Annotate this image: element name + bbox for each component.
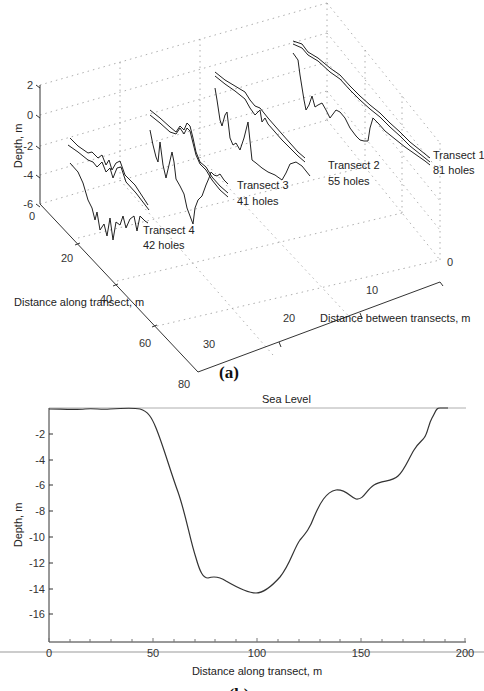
- y-tick: 20: [283, 312, 295, 324]
- depth-profile-line: [49, 408, 448, 593]
- panel-b-label: (b): [229, 685, 250, 691]
- transect-1-holes: 81 holes: [433, 164, 475, 176]
- y-tick: 30: [203, 338, 215, 350]
- transect-3-label: Transect 3: [237, 179, 289, 191]
- x-tick-labels: 0 50 100 150 200: [46, 647, 474, 659]
- x-tick: 0: [46, 647, 52, 659]
- y-tick: -16: [29, 608, 45, 620]
- y-tick: 10: [366, 284, 378, 296]
- x-tick: 50: [147, 647, 159, 659]
- x-axis-label: Distance along transect, m: [192, 665, 322, 677]
- transect-2-traces: [215, 72, 310, 180]
- z-tick: -4: [23, 169, 33, 181]
- x-tick: 200: [456, 647, 474, 659]
- y-tick: -6: [35, 479, 45, 491]
- panel-a-3d-chart: 2 0 -2 -4 -6 Depth, m 0 20 40 60 80 Dist…: [12, 3, 484, 390]
- z-tick: -2: [23, 140, 33, 152]
- z-tick: 2: [27, 79, 33, 91]
- y-tick-labels: 0 10 20 30: [203, 256, 453, 350]
- y-tick: -4: [35, 454, 45, 466]
- transect-1-traces: [293, 41, 430, 165]
- panel-a-label: (a): [219, 363, 239, 382]
- transect-4-holes: 42 holes: [143, 239, 185, 251]
- y-axis-label: Distance between transects, m: [320, 312, 470, 324]
- y-tick-labels: -2 -4 -6 -8 -10 -12 -14 -16: [29, 428, 45, 620]
- x-tick: 100: [248, 647, 266, 659]
- transect-4-label: Transect 4: [143, 224, 195, 236]
- y-tick: -8: [35, 505, 45, 517]
- z-tick: 0: [27, 109, 33, 121]
- transect-2-label: Transect 2: [328, 159, 380, 171]
- transect-1-label: Transect 1: [433, 149, 484, 161]
- y-tick: -14: [29, 583, 45, 595]
- y-axis-label: Depth, m: [12, 503, 24, 548]
- x-tick: 80: [178, 378, 190, 390]
- x-tick: 150: [352, 647, 370, 659]
- figure: 2 0 -2 -4 -6 Depth, m 0 20 40 60 80 Dist…: [0, 0, 484, 691]
- transect-2-holes: 55 holes: [328, 175, 370, 187]
- transect-3-holes: 41 holes: [237, 195, 279, 207]
- x-tick: 20: [61, 252, 73, 264]
- z-axis-label: Depth, m: [12, 124, 24, 169]
- z-tick-labels: 2 0 -2 -4 -6: [23, 79, 33, 210]
- y-tick: -10: [29, 531, 45, 543]
- z-tick: -6: [23, 198, 33, 210]
- y-tick: -2: [35, 428, 45, 440]
- sea-level-label: Sea Level: [262, 393, 311, 405]
- transect-3-traces: [150, 110, 228, 224]
- x-axis-label: Distance along transect, m: [14, 296, 144, 308]
- y-ticks: [49, 434, 53, 614]
- y-tick: -12: [29, 557, 45, 569]
- x-tick: 60: [139, 337, 151, 349]
- transect-4-traces: [68, 138, 149, 240]
- x-tick: 0: [29, 210, 35, 222]
- x-ticks: [49, 638, 465, 642]
- y-tick: 0: [447, 256, 453, 268]
- panel-b-profile-chart: Sea Level -2 -4 -6 -8 -10 -12 -14 -16 De…: [0, 393, 484, 691]
